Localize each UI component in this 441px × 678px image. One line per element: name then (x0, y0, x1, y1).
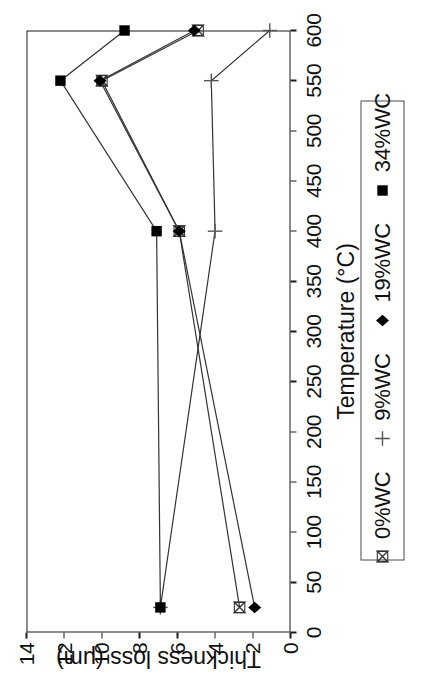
bowtie-marker (373, 545, 391, 567)
x-tick-mark (290, 29, 296, 30)
legend: 0%WC9%WC19%WC34%WC (360, 100, 404, 560)
legend-label: 9%WC (369, 353, 395, 420)
x-tick-label: 50 (301, 570, 325, 593)
y-tick-label: 0 (278, 642, 302, 678)
square-marker (373, 179, 391, 201)
y-tick-mark (63, 632, 64, 638)
x-axis-title: Temperature (°C) (332, 243, 359, 420)
legend-entry[interactable]: 9%WC (369, 353, 395, 449)
legend-label: 34%WC (369, 93, 395, 172)
x-tick-label: 200 (301, 414, 325, 448)
x-tick-mark (290, 481, 296, 482)
x-tick-label: 550 (301, 63, 325, 97)
legend-label: 0%WC (369, 471, 395, 538)
y-tick-mark (101, 632, 102, 638)
x-tick-mark (290, 280, 296, 281)
x-tick-mark (290, 581, 296, 582)
x-tick-mark (290, 330, 296, 331)
x-tick-mark (290, 79, 296, 80)
chart-page: 050100150200250300350400450500550600 024… (0, 0, 441, 678)
rotated-figure-wrapper: 050100150200250300350400450500550600 024… (0, 0, 441, 678)
x-tick-mark (290, 180, 296, 181)
legend-label: 19%WC (369, 223, 395, 302)
x-tick-mark (290, 531, 296, 532)
x-tick-label: 100 (301, 515, 325, 549)
x-tick-label: 0 (301, 626, 325, 637)
series-34pctWC (55, 25, 165, 612)
legend-entry[interactable]: 0%WC (369, 471, 395, 567)
y-tick-mark (214, 632, 215, 638)
figure: 050100150200250300350400450500550600 024… (0, 0, 441, 678)
y-axis-title: Thickness loss (μm) (56, 645, 261, 672)
x-tick-label: 300 (301, 314, 325, 348)
y-tick-mark (25, 632, 26, 638)
series-0pctWC (96, 25, 244, 612)
x-tick-mark (290, 380, 296, 381)
x-tick-mark (290, 431, 296, 432)
x-tick-label: 250 (301, 364, 325, 398)
y-tick-mark (289, 632, 290, 638)
x-tick-mark (290, 130, 296, 131)
x-tick-mark (290, 230, 296, 231)
x-tick-label: 400 (301, 214, 325, 248)
series-layer (26, 30, 290, 632)
diamond-marker (373, 309, 391, 331)
y-tick-mark (252, 632, 253, 638)
y-tick-mark (176, 632, 177, 638)
x-tick-label: 500 (301, 113, 325, 147)
legend-entry[interactable]: 34%WC (369, 93, 395, 201)
legend-entry[interactable]: 19%WC (369, 223, 395, 331)
x-tick-label: 350 (301, 264, 325, 298)
x-tick-label: 600 (301, 13, 325, 47)
x-tick-label: 450 (301, 163, 325, 197)
plus-marker (373, 427, 391, 449)
x-tick-label: 150 (301, 464, 325, 498)
y-tick-mark (138, 632, 139, 638)
y-tick-label: 14 (14, 642, 38, 678)
series-9pctWC (153, 23, 277, 614)
